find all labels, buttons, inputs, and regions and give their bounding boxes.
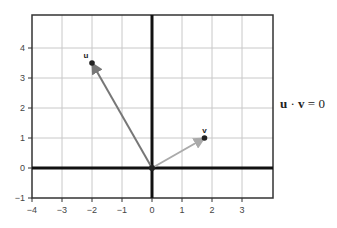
vector-v — [152, 138, 205, 168]
vector-label-u: u — [84, 51, 89, 60]
eq-dot: · — [287, 96, 298, 111]
x-tick-label: −4 — [27, 205, 37, 215]
y-tick-label: 4 — [20, 43, 25, 53]
x-tick-label: 3 — [239, 205, 244, 215]
vector-label-v: v — [202, 126, 207, 135]
dot-product-equation: u · v = 0 — [280, 96, 325, 112]
x-tick-label: −1 — [117, 205, 127, 215]
y-tick-label: −1 — [15, 193, 25, 203]
eq-rest: = 0 — [305, 96, 325, 111]
origin-point — [149, 165, 155, 171]
vector-tip-u — [89, 60, 95, 66]
x-tick-label: 0 — [149, 205, 154, 215]
y-tick-label: 3 — [20, 73, 25, 83]
y-tick-label: 0 — [20, 163, 25, 173]
x-tick-label: 1 — [179, 205, 184, 215]
x-tick-label: −3 — [57, 205, 67, 215]
vector-tip-v — [202, 135, 208, 141]
vector-plot: −4−3−2−10123−101234uv — [0, 0, 337, 228]
x-tick-label: −2 — [87, 205, 97, 215]
y-tick-label: 2 — [20, 103, 25, 113]
x-tick-label: 2 — [209, 205, 214, 215]
y-tick-label: 1 — [20, 133, 25, 143]
